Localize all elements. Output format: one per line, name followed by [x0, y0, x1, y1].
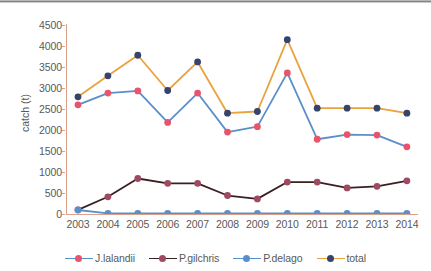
y-tick-mark [62, 67, 65, 68]
legend-label: P.gilchris [179, 253, 219, 264]
x-tick-label: 2011 [300, 219, 334, 230]
data-point [344, 131, 351, 138]
legend-item-pgilchris[interactable]: P.gilchris [149, 253, 219, 264]
y-tick-mark [62, 151, 65, 152]
y-tick-label: 3500 [22, 62, 62, 73]
legend-label: P.delago [263, 253, 302, 264]
y-tick-label: 4500 [22, 20, 62, 31]
data-point [134, 88, 141, 95]
data-point [404, 210, 411, 214]
data-point [284, 36, 291, 43]
x-tick-label: 2014 [390, 219, 424, 230]
legend-swatch-icon [149, 254, 177, 263]
series-line-total [78, 40, 407, 114]
data-point [284, 69, 291, 76]
y-tick-label: 3000 [22, 83, 62, 94]
legend-swatch-icon [233, 254, 261, 263]
data-point [344, 185, 351, 192]
series-line-jlalandii [78, 73, 407, 147]
data-point [224, 129, 231, 136]
data-point [194, 59, 201, 66]
data-point [374, 183, 381, 190]
data-point [254, 210, 261, 214]
data-point [224, 110, 231, 117]
data-point [164, 119, 171, 126]
data-point [134, 175, 141, 182]
data-point [404, 177, 411, 184]
data-point [284, 210, 291, 214]
y-tick-label: 4000 [22, 41, 62, 52]
x-tick-label: 2007 [181, 219, 215, 230]
y-tick-label: 1500 [22, 146, 62, 157]
data-point [254, 108, 261, 115]
x-tick-label: 2013 [360, 219, 394, 230]
y-tick-mark [62, 130, 65, 131]
data-point [194, 90, 201, 97]
legend-marker [159, 255, 166, 262]
data-point [314, 179, 321, 186]
legend-item-jlalandii[interactable]: J.lalandii [65, 253, 135, 264]
y-tick-label: 500 [22, 188, 62, 199]
data-point [344, 105, 351, 112]
legend-marker [327, 255, 334, 262]
y-tick-mark [62, 172, 65, 173]
series-line-pdelago [78, 210, 407, 213]
data-point [404, 110, 411, 117]
legend-label: total [347, 253, 366, 264]
y-tick-mark [62, 88, 65, 89]
series-line-pgilchris [78, 179, 407, 210]
x-tick-label: 2004 [91, 219, 125, 230]
y-tick-label: 0 [22, 209, 62, 220]
data-point [105, 90, 112, 97]
data-point [224, 210, 231, 214]
y-tick-label: 1000 [22, 167, 62, 178]
data-point [374, 132, 381, 139]
data-point [254, 123, 261, 130]
x-tick-label: 2009 [240, 219, 274, 230]
data-point [164, 210, 171, 214]
data-point [224, 192, 231, 199]
y-tick-mark [62, 109, 65, 110]
legend-swatch-icon [317, 254, 345, 263]
data-point [105, 193, 112, 200]
data-point [194, 180, 201, 187]
data-point [134, 52, 141, 59]
y-tick-mark [62, 193, 65, 194]
legend-marker [243, 255, 250, 262]
y-tick-label: 2000 [22, 125, 62, 136]
data-point [105, 72, 112, 79]
y-tick-mark [62, 46, 65, 47]
legend-item-pdelago[interactable]: P.delago [233, 253, 302, 264]
x-axis-tick-labels: 2003200420052006200720082009201020112012… [0, 219, 431, 235]
x-tick-label: 2005 [121, 219, 155, 230]
y-tick-label: 2500 [22, 104, 62, 115]
x-axis-line [66, 214, 418, 215]
legend-item-total[interactable]: total [317, 253, 366, 264]
data-point [75, 207, 82, 214]
y-tick-mark [62, 25, 65, 26]
chart-legend: J.lalandiiP.gilchrisP.delagototal [0, 249, 431, 267]
data-point [344, 210, 351, 214]
data-point [404, 143, 411, 150]
data-point [75, 93, 82, 100]
data-point [314, 210, 321, 214]
data-point [314, 105, 321, 112]
legend-label: J.lalandii [95, 253, 135, 264]
data-point [374, 210, 381, 214]
y-tick-mark [62, 214, 65, 215]
legend-marker [75, 255, 82, 262]
data-point [314, 136, 321, 143]
data-point [164, 180, 171, 187]
data-point [105, 210, 112, 214]
plot-area [66, 25, 418, 214]
data-point [254, 195, 261, 202]
data-point [134, 210, 141, 214]
x-tick-label: 2003 [61, 219, 95, 230]
data-point [284, 179, 291, 186]
x-tick-label: 2006 [151, 219, 185, 230]
data-point [164, 87, 171, 94]
x-tick-label: 2008 [211, 219, 245, 230]
data-point [75, 101, 82, 108]
data-point [194, 210, 201, 214]
x-tick-label: 2012 [330, 219, 364, 230]
